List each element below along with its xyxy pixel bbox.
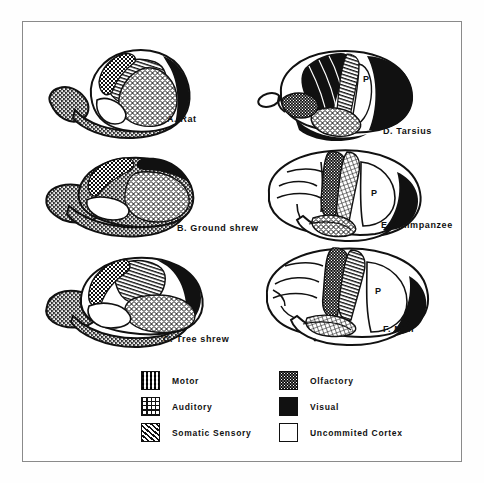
- legend-label-visual: Visual: [310, 402, 339, 412]
- legend-item-auditory: Auditory: [141, 397, 213, 416]
- legend-item-motor: Motor: [141, 371, 199, 390]
- legend-item-somatic-sensory: Somatic Sensory: [141, 423, 251, 442]
- legend-label-auditory: Auditory: [172, 402, 213, 412]
- legend-label-somatic-sensory: Somatic Sensory: [172, 428, 251, 438]
- legend-swatch-uncommited-cortex: [279, 423, 298, 442]
- legend-swatch-motor: [141, 371, 160, 390]
- legend-swatch-olfactory: [279, 371, 298, 390]
- legend-label-motor: Motor: [172, 376, 199, 386]
- legend-swatch-somatic-sensory: [141, 423, 160, 442]
- legend-item-uncommited-cortex: Uncommited Cortex: [279, 423, 403, 442]
- figure-border: A. Rat B. Ground shrew: [22, 21, 462, 462]
- legend: Motor Auditory Somatic Sensory Olfactory…: [23, 22, 461, 461]
- legend-swatch-auditory: [141, 397, 160, 416]
- figure-plate: A. Rat B. Ground shrew: [0, 0, 484, 483]
- legend-swatch-visual: [279, 397, 298, 416]
- legend-item-visual: Visual: [279, 397, 339, 416]
- legend-label-uncommited-cortex: Uncommited Cortex: [310, 428, 403, 438]
- legend-item-olfactory: Olfactory: [279, 371, 354, 390]
- legend-label-olfactory: Olfactory: [310, 376, 354, 386]
